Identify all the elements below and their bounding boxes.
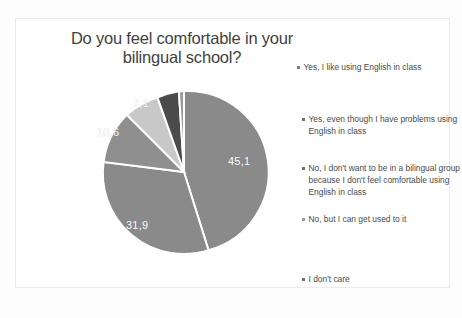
legend-marker-icon — [302, 218, 305, 221]
legend-marker-icon — [302, 118, 305, 121]
pie-label-10-6: 10,6 — [97, 126, 119, 138]
legend-marker-icon — [302, 167, 305, 170]
legend-item-no-get-used[interactable]: No, but I can get used to it — [302, 214, 462, 226]
pie-label-31-9: 31,9 — [126, 219, 148, 231]
pie-label-45-1: 45,1 — [228, 155, 250, 167]
chart-title: Do you feel comfortable in your bilingua… — [46, 29, 318, 67]
legend-item-label: I don't care — [309, 274, 462, 286]
legend-item-yes-like[interactable]: Yes, I like using English in class — [297, 62, 462, 74]
legend-marker-icon — [297, 66, 300, 69]
legend-item-yes-problems[interactable]: Yes, even though I have problems using E… — [302, 114, 462, 138]
legend-item-label: Yes, I like using English in class — [304, 62, 462, 74]
legend-item-no-dont-want[interactable]: No, I don't want to be in a bilingual gr… — [302, 163, 462, 199]
pie-label-7-1: 7,1 — [133, 97, 149, 109]
legend-marker-icon — [302, 278, 305, 281]
pie-chart: 45,1 31,9 10,6 7,1 — [74, 64, 274, 274]
legend-item-label: No, I don't want to be in a bilingual gr… — [309, 163, 462, 199]
legend-item-label: Yes, even though I have problems using E… — [309, 114, 462, 138]
legend-item-dont-care[interactable]: I don't care — [302, 274, 462, 286]
legend-item-label: No, but I can get used to it — [309, 214, 462, 226]
chart-frame: Do you feel comfortable in your bilingua… — [15, 18, 450, 288]
